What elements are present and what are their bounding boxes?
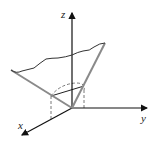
x-axis bbox=[22, 108, 72, 135]
diagram-canvas: z y x bbox=[0, 0, 156, 147]
y-axis-label: y bbox=[141, 113, 146, 124]
dashed-projection bbox=[51, 83, 84, 119]
cone-edge-left bbox=[11, 70, 72, 108]
diagram-svg bbox=[0, 0, 156, 147]
z-axis-label: z bbox=[61, 9, 65, 20]
x-axis-label: x bbox=[18, 120, 23, 131]
wavy-boundary-curve bbox=[11, 43, 105, 72]
